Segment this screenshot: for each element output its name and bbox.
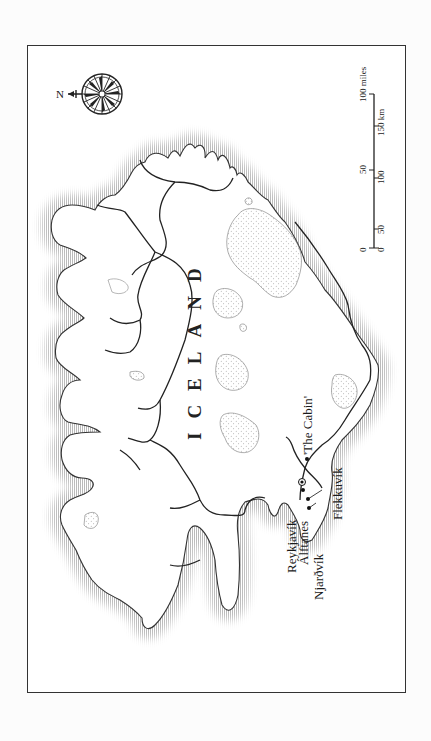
scale-label-150-km: 150 km xyxy=(376,109,386,136)
place-label-flekkuvik: Flekkuvík xyxy=(330,467,346,520)
place-label-njardvik: Njarðvík xyxy=(311,554,327,600)
marker-alftanes xyxy=(301,488,305,492)
marker-the-cabin xyxy=(305,457,309,461)
scale-label-50-km: 50 xyxy=(376,225,386,234)
place-markers xyxy=(290,455,330,525)
glacier-small-2 xyxy=(240,324,247,331)
scale-label-0-miles: 0 xyxy=(358,248,368,253)
country-label: ICELAND xyxy=(184,254,206,440)
north-label: N xyxy=(56,88,64,100)
scale-label-50-miles: 50 xyxy=(358,165,368,174)
scale-label-0-km: 0 xyxy=(376,248,386,253)
compass-rose-icon xyxy=(64,68,126,120)
glacier-small-3 xyxy=(245,198,252,205)
place-label-alftanes: Álftanes xyxy=(296,521,312,565)
scale-label-100-km: 100 xyxy=(376,171,386,185)
place-label-the-cabin: 'The Cabin' xyxy=(300,396,316,455)
glacier-drangajokull xyxy=(84,512,98,528)
scale-label-100-miles: 100 miles xyxy=(358,67,368,102)
